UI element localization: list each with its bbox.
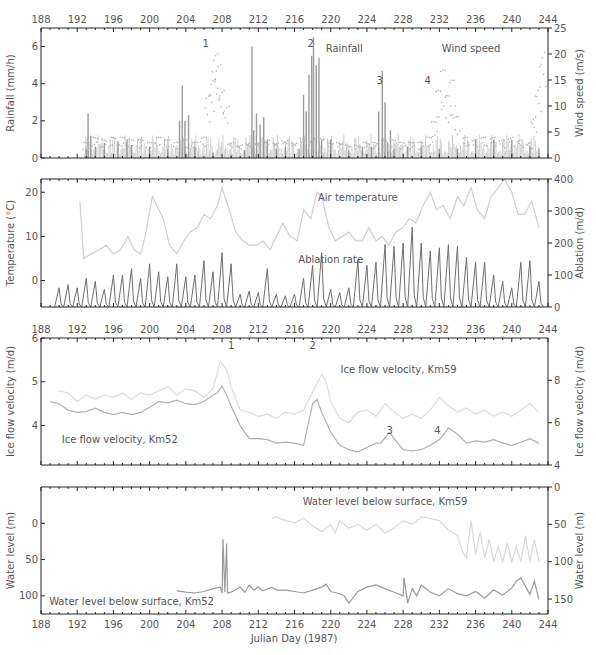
x-axis-label: Julian Day (1987) xyxy=(250,633,338,644)
y-axis-label-left: Ice flow velocity (m/d) xyxy=(5,346,16,457)
x-tick-label: 216 xyxy=(285,14,304,25)
y-tick-label-right: 15 xyxy=(554,75,567,86)
x-tick-label: 216 xyxy=(285,619,304,630)
y-tick-label-right: 100 xyxy=(554,556,573,567)
y-tick-label-right: 25 xyxy=(554,23,567,34)
annotation: 2 xyxy=(308,38,314,49)
y-axis-label-left: Water level (m) xyxy=(5,512,16,589)
y-tick-label-right: 10 xyxy=(554,101,567,112)
x-tick-label: 200 xyxy=(140,324,159,335)
x-tick-label: 220 xyxy=(321,324,340,335)
x-tick-label: 204 xyxy=(176,14,195,25)
y-tick-label-right: 0 xyxy=(554,482,560,493)
x-tick-label: 236 xyxy=(466,324,485,335)
y-axis-label-left: Rainfall (mm/h) xyxy=(5,54,16,131)
y-tick-label-right: 200 xyxy=(554,238,573,249)
y-tick-label-right: 6 xyxy=(554,417,560,428)
y-axis-label-right: Wind speed (m/s) xyxy=(574,49,585,137)
x-tick-label: 200 xyxy=(140,14,159,25)
y-tick-label-right: 0 xyxy=(554,153,560,164)
x-tick-label: 212 xyxy=(249,324,268,335)
x-tick-label: 224 xyxy=(357,14,376,25)
x-tick-label: 208 xyxy=(213,324,232,335)
y-tick-label-right: 8 xyxy=(554,375,560,386)
annotation: Ice flow velocity, Km59 xyxy=(341,364,457,375)
annotation: Wind speed xyxy=(442,43,501,54)
y-axis-label-right: Ice flow velocity (m/d) xyxy=(574,346,585,457)
plot-frame xyxy=(41,179,548,307)
x-tick-label: 228 xyxy=(394,324,413,335)
series-water-level-below-surface-km59 xyxy=(272,517,539,562)
annotation: Ablation rate xyxy=(298,254,363,265)
x-tick-label: 220 xyxy=(321,14,340,25)
panel-ice-flow-velocity: 1881921962002042082122162202242282322362… xyxy=(5,324,585,471)
annotation: Rainfall xyxy=(326,43,363,54)
x-tick-label: 188 xyxy=(31,619,50,630)
x-tick-label: 196 xyxy=(104,619,123,630)
x-tick-label: 208 xyxy=(213,619,232,630)
annotation: 4 xyxy=(434,425,440,436)
series-air-temperature xyxy=(80,179,539,258)
y-tick-label-right: 50 xyxy=(554,519,567,530)
y-tick-label-left: 0 xyxy=(32,153,38,164)
x-tick-label: 228 xyxy=(394,619,413,630)
y-tick-label-left: 10 xyxy=(25,231,38,242)
x-tick-label: 196 xyxy=(104,324,123,335)
x-tick-label: 204 xyxy=(176,324,195,335)
figure: 1881921962002042082122162202242282322362… xyxy=(0,0,596,655)
y-tick-label-left: 50 xyxy=(25,554,38,565)
y-axis-label-left: Temperature (°C) xyxy=(5,200,16,287)
x-tick-label: 192 xyxy=(68,14,87,25)
annotation: 3 xyxy=(376,75,382,86)
annotation: Water level below surface, Km59 xyxy=(303,496,468,507)
annotation: Ice flow velocity, Km52 xyxy=(62,434,178,445)
x-tick-label: 192 xyxy=(68,619,87,630)
x-tick-label: 232 xyxy=(430,14,449,25)
panel-temperature-ablation: 010200100200300400Temperature (°C)Ablati… xyxy=(5,174,585,313)
y-tick-label-right: 300 xyxy=(554,206,573,217)
series-ice-flow-velocity-km59 xyxy=(59,361,539,422)
annotation: Air temperature xyxy=(318,192,398,203)
x-tick-label: 244 xyxy=(538,619,557,630)
x-tick-label: 232 xyxy=(430,619,449,630)
x-tick-label: 216 xyxy=(285,324,304,335)
annotation: 2 xyxy=(309,340,315,351)
x-tick-label: 240 xyxy=(502,14,521,25)
x-tick-label: 232 xyxy=(430,324,449,335)
y-tick-label-right: 150 xyxy=(554,594,573,605)
x-tick-label: 188 xyxy=(31,14,50,25)
plot-frame xyxy=(41,338,548,465)
y-tick-label-right: 20 xyxy=(554,49,567,60)
x-tick-label: 200 xyxy=(140,619,159,630)
annotation: 1 xyxy=(228,340,234,351)
x-tick-label: 236 xyxy=(466,14,485,25)
multi-panel-chart: 1881921962002042082122162202242282322362… xyxy=(0,0,596,655)
x-tick-label: 224 xyxy=(357,324,376,335)
y-axis-label-right: Ablation (m/d) xyxy=(574,207,585,279)
x-tick-label: 208 xyxy=(213,14,232,25)
y-tick-label-right: 400 xyxy=(554,174,573,185)
y-tick-label-left: 6 xyxy=(32,41,38,52)
series-wind-speed xyxy=(82,51,546,150)
x-tick-label: 224 xyxy=(357,619,376,630)
y-tick-label-left: 0 xyxy=(32,275,38,286)
y-axis-label-right: Water level (m) xyxy=(574,512,585,589)
y-tick-label-left: 20 xyxy=(25,187,38,198)
annotation: 3 xyxy=(386,425,392,436)
x-tick-label: 220 xyxy=(321,619,340,630)
annotation: 1 xyxy=(203,38,209,49)
x-tick-label: 244 xyxy=(538,324,557,335)
x-tick-label: 236 xyxy=(466,619,485,630)
y-tick-label-left: 0 xyxy=(32,518,38,529)
y-tick-label-right: 4 xyxy=(554,460,560,471)
annotation: Water level below surface, Km52 xyxy=(49,596,214,607)
x-tick-label: 212 xyxy=(249,14,268,25)
annotation: 4 xyxy=(424,75,430,86)
y-tick-label-right: 100 xyxy=(554,270,573,281)
x-tick-label: 192 xyxy=(68,324,87,335)
y-tick-label-left: 4 xyxy=(32,78,38,89)
x-tick-label: 240 xyxy=(502,619,521,630)
x-tick-label: 196 xyxy=(104,14,123,25)
panel-water-level: 1881921962002042082122162202242282322362… xyxy=(5,482,585,631)
y-tick-label-left: 4 xyxy=(32,420,38,431)
